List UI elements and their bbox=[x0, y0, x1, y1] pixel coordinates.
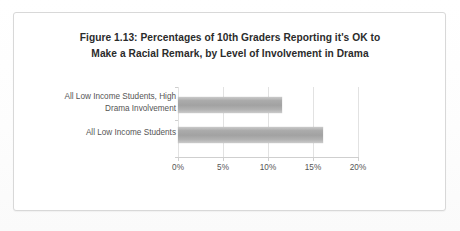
x-tick-label-4: 20% bbox=[341, 163, 375, 172]
figure-page: Figure 1.13: Percentages of 10th Graders… bbox=[0, 0, 460, 231]
category-tick-middle bbox=[175, 120, 178, 121]
x-tick-label-3: 15% bbox=[296, 163, 330, 172]
category-label-1-line-1: All Low Income Students bbox=[86, 128, 176, 137]
x-axis-tick-labels: 0% 5% 10% 15% 20% bbox=[178, 163, 359, 177]
bar-chart: All Low Income Students, High Drama Invo… bbox=[0, 0, 460, 231]
category-label-0-line-2: Drama Involvement bbox=[105, 104, 176, 113]
gridline-15 bbox=[313, 87, 314, 157]
x-axis-tick-0 bbox=[178, 157, 179, 161]
gridline-20 bbox=[358, 87, 359, 157]
bar-0 bbox=[178, 97, 282, 113]
x-axis-tick-20 bbox=[358, 157, 359, 161]
plot-area bbox=[178, 87, 359, 157]
category-label-0: All Low Income Students, High Drama Invo… bbox=[30, 91, 176, 114]
category-axis-labels: All Low Income Students, High Drama Invo… bbox=[30, 87, 176, 157]
x-axis-tick-5 bbox=[223, 157, 224, 161]
category-label-0-line-1: All Low Income Students, High bbox=[65, 92, 177, 101]
x-axis-tick-15 bbox=[313, 157, 314, 161]
x-tick-label-2: 10% bbox=[251, 163, 285, 172]
x-tick-label-1: 5% bbox=[206, 163, 240, 172]
category-tick-top bbox=[175, 87, 178, 88]
category-label-1: All Low Income Students bbox=[30, 127, 176, 139]
x-axis-tick-10 bbox=[268, 157, 269, 161]
x-tick-label-0: 0% bbox=[161, 163, 195, 172]
bar-1 bbox=[178, 127, 323, 143]
